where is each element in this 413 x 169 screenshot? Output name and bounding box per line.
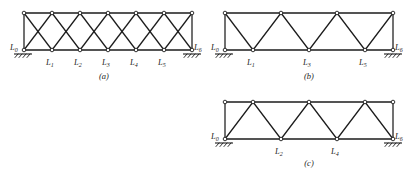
truss-c-support-left	[215, 143, 233, 147]
truss-a-support-right	[183, 54, 201, 58]
truss-a-node-label-L0: L0	[9, 42, 18, 53]
truss-c-support-right	[384, 143, 402, 147]
truss-c-caption: (c)	[304, 158, 314, 168]
truss-a-node-label-L3: L3	[101, 57, 110, 68]
truss-c-node-label-L6: L6	[394, 131, 403, 142]
truss-b-node-label-L6: L6	[394, 42, 403, 53]
truss-b-caption: (b)	[304, 71, 314, 81]
truss-panel-a: L0 L1 L2 L3 L4 L5 L6 (a)	[9, 11, 202, 81]
truss-a-diagonals	[24, 13, 192, 50]
truss-c-node-label-L0: L0	[210, 131, 219, 142]
truss-a-node-label-L5: L5	[157, 57, 166, 68]
truss-c-node-label-L2: L2	[274, 146, 283, 157]
truss-a-support-left	[14, 54, 32, 58]
truss-c-diagonals	[225, 102, 393, 139]
truss-a-node-label-L6: L6	[193, 42, 202, 53]
truss-a-node-label-L2: L2	[73, 57, 82, 68]
truss-b-support-right	[384, 54, 402, 58]
truss-b-support-left	[215, 54, 233, 58]
truss-a-joints	[22, 11, 194, 52]
truss-c-joints	[223, 100, 395, 141]
truss-panel-c: L0 L2 L4 L6 (c)	[210, 100, 403, 168]
truss-a-caption: (a)	[99, 71, 109, 81]
truss-b-joints	[223, 11, 395, 52]
truss-b-node-label-L5: L5	[358, 57, 367, 68]
truss-a-node-label-L4: L4	[129, 57, 138, 68]
truss-b-diagonals	[225, 13, 393, 50]
truss-a-node-label-L1: L1	[45, 57, 54, 68]
truss-c-node-label-L4: L4	[330, 146, 339, 157]
truss-panel-b: L0 L1 L3 L5 L6 (b)	[210, 11, 403, 81]
truss-b-node-label-L3: L3	[302, 57, 311, 68]
truss-diagram-canvas: L0 L1 L2 L3 L4 L5 L6 (a)	[0, 0, 413, 169]
truss-b-node-label-L1: L1	[246, 57, 255, 68]
truss-b-node-label-L0: L0	[210, 42, 219, 53]
truss-figure: L0 L1 L2 L3 L4 L5 L6 (a)	[0, 0, 413, 169]
